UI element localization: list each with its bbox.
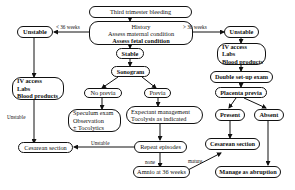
node-label: Absent: [260, 111, 279, 118]
node-label: Assess fetal condition: [112, 37, 169, 44]
edge-label-lt36: < 36 weeks: [56, 24, 80, 30]
node-label: Unstable: [23, 28, 47, 35]
node-label: Stable: [122, 50, 139, 57]
node-iv-access-right: IV access Labs Blood products: [217, 43, 266, 65]
node-iv-access-left: IV access Labs Blood products: [12, 77, 64, 100]
node-cesarean-section-left: Cesarean section: [18, 142, 73, 153]
edge-label-unstable-repeat: Unstable: [91, 140, 109, 146]
node-label: Placenta previa: [220, 89, 262, 96]
node-label: IV access: [17, 77, 42, 84]
node-label: Double set-up exam: [215, 73, 268, 80]
node-label: Labs: [17, 85, 30, 92]
node-label: Observation: [73, 117, 104, 124]
node-label: Speculum exam: [73, 109, 113, 116]
edge-label-unstable-side: Unstable: [7, 114, 25, 120]
node-absent: Absent: [254, 109, 284, 121]
node-label: Present: [220, 111, 240, 118]
node-no-previa: No previa: [84, 88, 122, 98]
edge-label-none: none: [145, 159, 155, 165]
node-amnio-36-weeks: Amnio at 36 weeks: [133, 166, 190, 178]
node-label: History: [132, 23, 151, 30]
node-label: IV access: [222, 43, 247, 50]
node-label: Sonogram: [117, 68, 145, 75]
node-label: Tocolysis as indicated: [131, 115, 187, 122]
node-repeat-episodes: Repeat episodes: [134, 141, 187, 153]
node-placenta-previa: Placenta previa: [215, 87, 267, 98]
node-unstable-right: Unstable: [224, 26, 259, 38]
node-double-setup-exam: Double set-up exam: [210, 71, 273, 83]
node-history: History Assess maternal condition Assess…: [89, 21, 193, 45]
node-label: Labs: [222, 50, 235, 57]
edge-label-gt36: > 36 weeks: [183, 24, 207, 30]
node-sonogram: Sonogram: [111, 66, 150, 77]
node-present: Present: [215, 109, 245, 121]
node-label: Previa: [149, 89, 165, 96]
node-label: Manage as abruption: [219, 168, 276, 175]
node-speculum-exam: Speculum exam Observation ± Tocolytics: [68, 109, 121, 132]
node-label: Unstable: [230, 28, 254, 35]
node-label: Blood products: [222, 58, 263, 65]
node-expectant-management: Expectant management Tocolysis as indica…: [126, 106, 203, 124]
node-label: Cesarean section: [210, 140, 255, 147]
node-label: ± Tocolytics: [73, 124, 104, 131]
node-unstable-left: Unstable: [17, 26, 53, 38]
node-label: Blood products: [17, 92, 58, 99]
edge-label-mature: mature: [188, 158, 202, 164]
node-label: Cesarean section: [24, 144, 67, 151]
node-manage-as-abruption: Manage as abruption: [215, 166, 281, 178]
node-label: Repeat episodes: [140, 143, 181, 150]
node-stable: Stable: [116, 48, 144, 59]
node-label: Amnio at 36 weeks: [137, 168, 186, 175]
node-previa: Previa: [144, 88, 171, 98]
node-label: No previa: [90, 89, 115, 96]
node-label: Expectant management: [131, 108, 190, 115]
node-label: Assess maternal condition: [108, 30, 174, 37]
node-third-trimester-bleeding: Third trimester bleeding: [89, 6, 192, 18]
node-label: Third trimester bleeding: [110, 8, 171, 15]
node-cesarean-section-right: Cesarean section: [205, 138, 260, 150]
